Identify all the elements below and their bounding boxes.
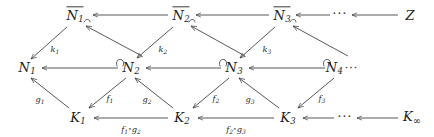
node-N1-subscript: 1 [30,66,35,76]
node-N3-subscript: 3 [237,66,242,76]
node-N3-bar: N3 [273,6,290,23]
arrow-N3-to-K2 [193,78,229,108]
edge-label-k1: k1 [51,45,60,55]
edge-label-k2-subscript: 2 [164,48,168,55]
edge-label-g3-subscript: 3 [251,98,255,105]
node-K3-subscript: 3 [290,116,295,126]
edge-label-f2-compose-g3: f2∘g3 [226,125,246,135]
node-K1: K1 [70,111,85,126]
node-N1-bar-base: N [66,8,77,23]
ellipsis-top-row: ··· [332,8,347,20]
arrow-N3-to-N2bar [191,26,245,56]
edge-label-g1: g1 [35,95,44,105]
diagram-arrows-layer [0,0,434,137]
edge-label-g3: g3 [245,95,254,105]
edge-label-k3: k3 [263,45,272,55]
node-K2: K2 [174,111,189,126]
node-N3-base: N [225,60,236,75]
edge-label-f3-subscript: 3 [322,97,326,104]
node-K1-base: K [70,110,80,125]
node-K2-subscript: 2 [184,116,189,126]
node-N4-base: N [326,60,337,75]
node-K2-base: K [174,110,184,125]
node-K-infinity: K∞ [403,110,421,125]
edge-label-f2-subscript: 2 [216,97,220,104]
node-N2-bar-base: N [172,8,183,23]
node-N1-base: N [18,60,29,75]
hook-curl-N3bar [290,19,296,22]
node-N4: N4··· [326,61,359,76]
edge-label-f1: f1 [107,94,114,104]
node-N2-base: N [122,60,133,75]
edge-label-g2-subscript: 2 [148,98,152,105]
edge-label-f1-subscript: 1 [110,97,114,104]
edge-label-f2-compose-g3-right-subscript: 3 [242,128,246,135]
node-N2-bar-subscript: 2 [184,14,189,24]
node-K-infinity-base: K [403,109,413,124]
node-K3: K3 [280,111,295,126]
edge-label-f3: f3 [319,94,326,104]
edge-label-f2: f2 [213,94,220,104]
hook-curl-N1bar [84,19,90,22]
node-N2-subscript: 2 [134,66,139,76]
node-Z-base: Z [405,8,414,23]
node-N1: N1 [18,61,35,76]
node-K-infinity-subscript: ∞ [413,115,421,126]
arrow-N2bar-to-N2 [137,27,173,58]
node-Z: Z [405,9,414,22]
edge-label-k3-subscript: 3 [268,48,272,55]
node-K3-base: K [280,110,290,125]
node-N3-bar-base: N [273,8,284,23]
commutative-diagram: N1 N2 N3 Z ··· N1 N2 N3 N4··· K1 K2 K3 K… [0,0,434,137]
edge-label-g2: g2 [142,95,151,105]
edge-label-f1-compose-g2-right-subscript: 2 [137,128,141,135]
node-N2-bar: N2 [172,6,189,23]
node-N3-bar-subscript: 3 [285,14,290,24]
arrow-N1bar-to-N1 [31,27,67,59]
hook-curl-N2bar [189,19,195,22]
node-N3: N3 [225,61,242,76]
edge-label-k2: k2 [159,45,168,55]
node-N2: N2 [122,61,139,76]
node-N1-bar-subscript: 1 [78,14,83,24]
ellipsis-bottom-row: ··· [337,111,352,123]
node-K1-subscript: 1 [80,116,85,126]
edge-label-k1-subscript: 1 [56,48,60,55]
edge-label-g1-subscript: 1 [41,98,45,105]
arrow-N2-to-N1bar [86,26,142,56]
node-N1-bar: N1 [66,6,83,23]
arrow-K2-to-N2 [135,78,173,108]
edge-label-f1-compose-g2: f1∘g2 [121,125,141,135]
node-N4-subscript: 4 [337,66,342,76]
arrow-N4-to-K3 [298,78,334,108]
arrow-N4-to-N3bar [293,26,348,56]
ellipsis-middle-row-trailing: ··· [345,62,359,75]
